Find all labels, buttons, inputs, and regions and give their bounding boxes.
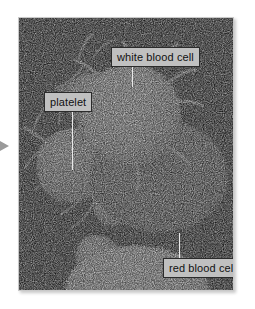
leader-line-red-blood-cell: [179, 233, 180, 259]
micrograph-image: white blood cell platelet red blood cell: [19, 18, 233, 290]
left-pointer-arrow-icon: [0, 141, 9, 151]
label-platelet: platelet: [44, 92, 92, 112]
figure-root: white blood cell platelet red blood cell: [0, 0, 255, 309]
leader-line-platelet: [72, 109, 73, 170]
label-white-blood-cell: white blood cell: [111, 47, 200, 67]
micrograph-frame: white blood cell platelet red blood cell: [18, 17, 234, 291]
label-red-blood-cell: red blood cell: [163, 258, 233, 278]
